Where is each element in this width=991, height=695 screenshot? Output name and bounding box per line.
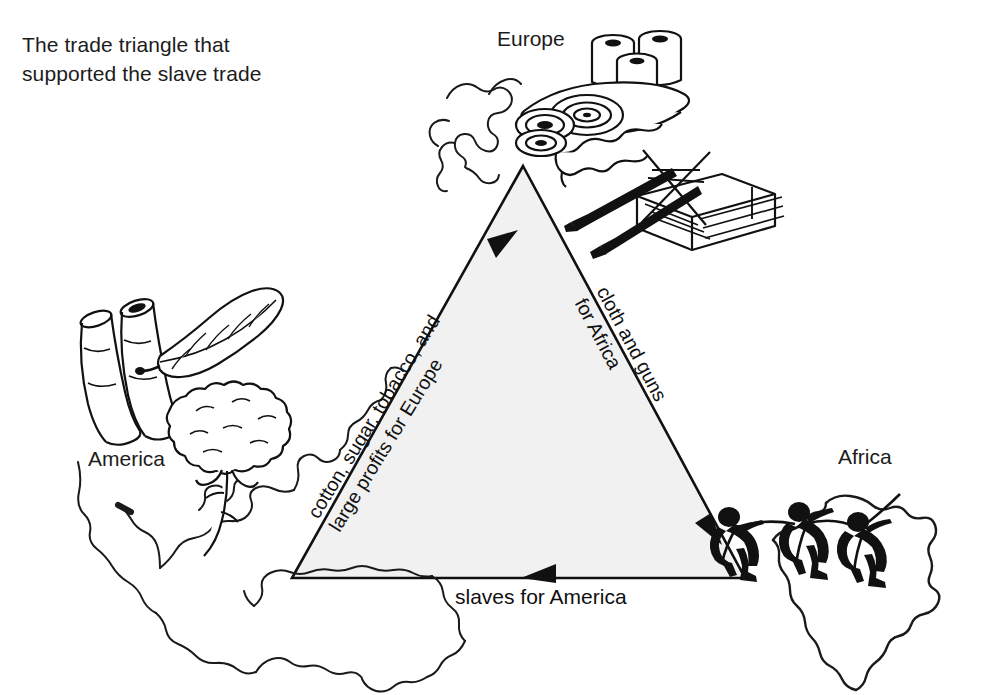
region-label-africa: Africa <box>838 445 892 469</box>
cloth-rolls-illustration <box>516 31 689 187</box>
region-label-europe: Europe <box>497 27 565 51</box>
page-caption: The trade triangle that supported the sl… <box>22 30 262 88</box>
region-label-america: America <box>88 447 165 471</box>
edge-label-africa-to-america: slaves for America <box>455 585 627 609</box>
europe-map-outline <box>430 79 522 191</box>
cotton-boll-illustration <box>167 382 291 557</box>
diagram-canvas: The trade triangle that supported the sl… <box>0 0 991 695</box>
